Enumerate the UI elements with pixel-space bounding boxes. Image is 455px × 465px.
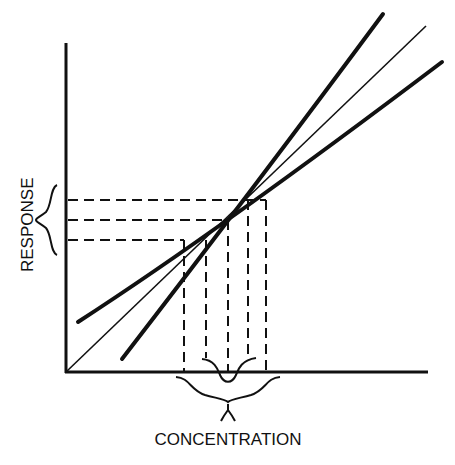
y-axis-label: RESPONSE [18, 178, 37, 272]
lower-bound-curve [122, 14, 383, 359]
concentration-pointer-icon [221, 404, 235, 421]
x-axis-label: CONCENTRATION [154, 430, 301, 449]
response-brace [36, 185, 57, 255]
calibration-diagram: RESPONSE CONCENTRATION [0, 0, 455, 465]
upper-bound-curve [78, 62, 442, 322]
